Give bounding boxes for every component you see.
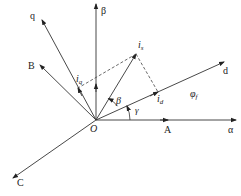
is-vector [96,54,136,120]
b-axis [40,65,96,120]
alpha-label: α [228,124,234,135]
gamma-angle-arc [127,106,130,120]
id-label: id [157,93,164,106]
origin-label: O [90,123,97,134]
is-to-id-projection [136,54,158,92]
c-axis [13,120,96,178]
b-label: B [28,60,35,71]
d-axis [96,62,224,120]
beta-angle-label: β [115,95,121,106]
c-label: C [17,177,24,188]
a-label: A [164,124,172,135]
q-axis [42,20,96,120]
iq-vector [78,88,82,96]
vector-diagram: O α β d q A B C is id iq φf β γ [0,0,241,196]
is-label: is [138,39,144,52]
d-label: d [223,65,228,76]
gamma-angle-label: γ [135,105,139,115]
flux-label: φf [190,88,199,101]
beta-label: β [101,5,106,16]
is-to-iq-projection [78,54,136,88]
q-label: q [30,10,35,21]
